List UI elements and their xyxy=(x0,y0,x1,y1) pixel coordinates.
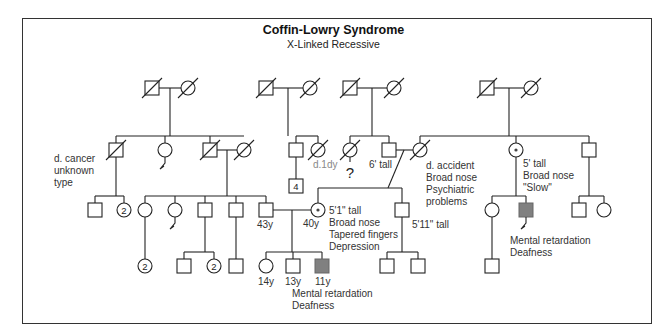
male-square-icon xyxy=(177,259,191,273)
male-individual xyxy=(142,78,162,98)
male-individual xyxy=(198,203,212,217)
female-individual xyxy=(300,78,320,98)
female-individual: 2 xyxy=(207,259,221,273)
female-individual xyxy=(178,78,198,98)
female-individual xyxy=(521,78,541,98)
female-circle-icon xyxy=(597,203,611,217)
male-individual: 13y xyxy=(285,259,301,287)
male-individual xyxy=(200,140,220,160)
annotation-label: problems xyxy=(426,196,467,207)
male-square-icon xyxy=(582,143,596,157)
male-individual xyxy=(380,259,394,273)
female-individual: 2 xyxy=(138,259,152,273)
zigzag-icon xyxy=(521,217,526,229)
annotation-label: 5'1" tall xyxy=(329,205,361,216)
male-individual xyxy=(289,143,303,157)
male-square-icon xyxy=(380,259,394,273)
annotation-label: 11y xyxy=(315,276,330,287)
annotation-label: type xyxy=(54,177,73,188)
male-square-icon xyxy=(88,203,102,217)
female-individual xyxy=(597,203,611,217)
male-individual xyxy=(229,259,243,273)
female-individual xyxy=(384,78,404,98)
annotation-label: d. accident xyxy=(426,160,475,171)
male-individual xyxy=(582,143,596,157)
count-label: 2 xyxy=(142,261,147,272)
female-individual xyxy=(485,203,499,217)
annotation-label: Mental retardation xyxy=(292,288,373,299)
annotation-label: 13y xyxy=(285,276,301,287)
male-individual xyxy=(477,78,497,98)
male-square-icon xyxy=(289,143,303,157)
annotation-label: Broad nose xyxy=(523,170,575,181)
annotation-label: 6' tall xyxy=(369,159,392,170)
annotation-label: 5'11" tall xyxy=(412,219,449,230)
female-individual: 5' tallBroad nose"Slow" xyxy=(509,143,575,193)
unknown-question-mark: ? xyxy=(346,164,354,181)
male-individual: 43y xyxy=(257,203,273,230)
female-circle-icon xyxy=(168,203,182,217)
annotation-label: Tapered fingers xyxy=(329,229,398,240)
count-label: 2 xyxy=(211,261,216,272)
female-individual: 2 xyxy=(117,203,131,217)
male-individual xyxy=(411,259,425,273)
carrier-dot-icon xyxy=(316,208,319,211)
female-circle-icon xyxy=(158,143,172,157)
female-individual: d. accidentBroad nosePsychiatricproblems xyxy=(410,140,478,207)
male-square-icon xyxy=(485,259,499,273)
annotation-label: Broad nose xyxy=(426,172,478,183)
individuals: d. cancerunknowntyped.1dy?6' talld. acci… xyxy=(54,78,611,311)
male-square-icon xyxy=(411,259,425,273)
male-individual xyxy=(485,259,499,273)
age-label: 40y xyxy=(303,218,319,229)
female-individual: d.1dy xyxy=(308,140,337,170)
female-individual xyxy=(138,203,152,217)
annotation-label: Deafness xyxy=(510,247,552,258)
female-circle-icon xyxy=(485,203,499,217)
annotation-label: "Slow" xyxy=(523,182,552,193)
zigzag-icon xyxy=(170,217,175,229)
count-label: 4 xyxy=(293,181,298,192)
annotation-label: 14y xyxy=(258,276,274,287)
female-individual xyxy=(158,143,172,169)
annotation-label: unknown xyxy=(54,165,94,176)
male-square-icon xyxy=(286,259,300,273)
annotation-label: 43y xyxy=(257,219,273,230)
male-square-icon xyxy=(229,259,243,273)
carrier-dot-icon xyxy=(514,148,517,151)
male-individual: 5'11" tall xyxy=(395,203,449,230)
annotation-label: Depression xyxy=(329,241,380,252)
count-label: 2 xyxy=(121,205,126,216)
female-circle-icon xyxy=(138,203,152,217)
male-square-icon xyxy=(259,203,273,217)
male-individual xyxy=(177,259,191,273)
annotation-label: Broad nose xyxy=(329,217,381,228)
male-individual: d. cancerunknowntype xyxy=(54,140,126,188)
male-square-icon xyxy=(198,203,212,217)
male-square-icon xyxy=(229,203,243,217)
annotation-label: Deafness xyxy=(292,300,334,311)
male-individual: 6' tall xyxy=(369,143,396,170)
female-individual xyxy=(234,140,254,160)
male-individual: 4 xyxy=(289,179,303,193)
annotation-label: d. cancer xyxy=(54,153,96,164)
female-individual: 40y5'1" tallBroad noseTapered fingersDep… xyxy=(303,203,398,252)
male-individual xyxy=(229,203,243,217)
male-individual xyxy=(572,203,586,217)
annotation-label: d.1dy xyxy=(313,159,337,170)
male-square-icon xyxy=(395,203,409,217)
annotation-label: Mental retardation xyxy=(510,235,591,246)
male-individual xyxy=(256,78,276,98)
female-individual xyxy=(168,203,182,229)
annotation-label: Psychiatric xyxy=(426,184,474,195)
female-individual: ? xyxy=(340,140,360,181)
zigzag-icon xyxy=(160,157,165,169)
female-circle-icon xyxy=(259,259,273,273)
female-individual: 14y xyxy=(258,259,274,287)
pedigree-chart: d. cancerunknowntyped.1dy?6' talld. acci… xyxy=(0,0,667,333)
male-square-icon xyxy=(572,203,586,217)
male-individual: 11yMental retardationDeafness xyxy=(292,259,373,311)
male-individual xyxy=(340,78,360,98)
affected-male-square-icon xyxy=(519,203,533,217)
male-individual xyxy=(88,203,102,217)
